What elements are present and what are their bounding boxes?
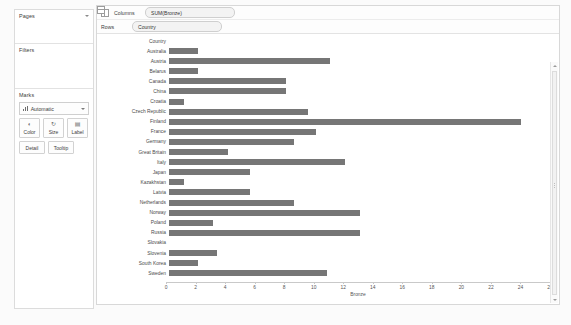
chevron-down-icon[interactable] xyxy=(81,108,85,110)
x-axis-tick-label: 22 xyxy=(488,285,493,290)
x-axis-line xyxy=(166,282,550,283)
bar-mark[interactable] xyxy=(169,179,184,185)
scroll-down-button[interactable] xyxy=(551,296,558,303)
bar-row[interactable]: China xyxy=(97,86,550,96)
color-button[interactable]: ◐ Color xyxy=(19,118,40,138)
chevron-down-icon[interactable] xyxy=(85,15,89,17)
bar-track xyxy=(169,268,550,278)
detail-button[interactable]: Detail xyxy=(19,141,45,154)
bar-row[interactable]: Czech Republic xyxy=(97,107,550,117)
x-axis-title: Bronze xyxy=(166,292,550,297)
bar-row[interactable]: Latvia xyxy=(97,187,550,197)
bar-row[interactable]: Slovenia xyxy=(97,248,550,258)
bar-mark[interactable] xyxy=(169,210,360,216)
bar-mark[interactable] xyxy=(169,88,286,94)
bar-mark[interactable] xyxy=(169,139,294,145)
bar-mark[interactable] xyxy=(169,250,217,256)
bar-row[interactable]: Finland xyxy=(97,117,550,127)
bar-row[interactable]: South Korea xyxy=(97,258,550,268)
x-axis-tick xyxy=(196,282,197,284)
marks-card-header[interactable]: Marks xyxy=(15,89,93,100)
plot-region: Country AustraliaAustriaBelarusCanadaChi… xyxy=(97,36,550,304)
bar-row[interactable]: Poland xyxy=(97,218,550,228)
bar-row[interactable]: Germany xyxy=(97,137,550,147)
bar-row-label: Kazakhstan xyxy=(97,180,169,185)
size-button[interactable]: ↻ Size xyxy=(43,118,64,138)
bar-row[interactable]: Italy xyxy=(97,157,550,167)
bar-row[interactable]: Canada xyxy=(97,76,550,86)
x-axis-tick xyxy=(520,282,521,284)
bar-mark[interactable] xyxy=(169,220,213,226)
label-button[interactable]: ▤ Label xyxy=(67,118,88,138)
columns-shelf[interactable]: Columns SUM(Bronze) xyxy=(97,6,559,20)
bar-mark[interactable] xyxy=(169,78,286,84)
scrollbar-thumb[interactable] xyxy=(552,71,557,295)
bar-mark[interactable] xyxy=(169,230,360,236)
bar-row-label: Russia xyxy=(97,230,169,235)
bar-mark[interactable] xyxy=(169,68,198,74)
bar-track xyxy=(169,248,550,258)
bar-row[interactable]: Belarus xyxy=(97,66,550,76)
bar-mark[interactable] xyxy=(169,48,198,54)
bar-row[interactable]: France xyxy=(97,127,550,137)
x-axis-tick xyxy=(166,282,167,284)
bar-row-label: South Korea xyxy=(97,261,169,266)
bar-row[interactable]: Norway xyxy=(97,208,550,218)
bar-mark[interactable] xyxy=(169,159,345,165)
marks-card: Marks Automatic ◐ Color ↻ Size ▤ Label xyxy=(15,89,93,308)
bar-mark[interactable] xyxy=(169,189,250,195)
bar-track xyxy=(169,177,550,187)
bar-row[interactable]: Kazakhstan xyxy=(97,177,550,187)
pages-card-header[interactable]: Pages xyxy=(15,10,93,21)
bar-mark[interactable] xyxy=(169,58,330,64)
pages-shelf-dropzone[interactable] xyxy=(15,21,93,43)
bar-rows: Country AustraliaAustriaBelarusCanadaChi… xyxy=(97,36,550,282)
x-axis-tick xyxy=(461,282,462,284)
vertical-scrollbar[interactable] xyxy=(550,62,558,303)
bar-track xyxy=(169,86,550,96)
bar-row[interactable]: Slovakia xyxy=(97,238,550,248)
bar-row-label: Canada xyxy=(97,79,169,84)
bar-row[interactable]: Russia xyxy=(97,228,550,238)
bar-row[interactable]: Netherlands xyxy=(97,198,550,208)
bar-row-label: Belarus xyxy=(97,69,169,74)
pill-sum-bronze[interactable]: SUM(Bronze) xyxy=(145,7,235,18)
bar-row-label: Poland xyxy=(97,220,169,225)
bar-row[interactable]: Australia xyxy=(97,46,550,56)
bar-track xyxy=(169,56,550,66)
bar-row-label: Sweden xyxy=(97,271,169,276)
bar-row-label: Norway xyxy=(97,210,169,215)
bar-row-label: Croatia xyxy=(97,99,169,104)
bar-mark[interactable] xyxy=(169,109,308,115)
bar-mark[interactable] xyxy=(169,260,198,266)
bar-mark[interactable] xyxy=(169,149,228,155)
tooltip-button[interactable]: Tooltip xyxy=(48,141,74,154)
color-button-label: Color xyxy=(24,129,36,135)
size-icon: ↻ xyxy=(51,121,56,127)
bar-row[interactable]: Japan xyxy=(97,167,550,177)
detail-button-label: Detail xyxy=(26,145,39,151)
bar-row[interactable]: Sweden xyxy=(97,268,550,278)
mark-type-dropdown[interactable]: Automatic xyxy=(19,102,89,115)
bar-mark[interactable] xyxy=(169,99,184,105)
bar-mark[interactable] xyxy=(169,169,250,175)
chevron-up-icon xyxy=(553,65,557,67)
bar-rows-host: AustraliaAustriaBelarusCanadaChinaCroati… xyxy=(97,46,550,278)
bar-mark[interactable] xyxy=(169,119,521,125)
bar-mark[interactable] xyxy=(169,129,316,135)
bar-mark[interactable] xyxy=(169,270,327,276)
bar-row[interactable]: Croatia xyxy=(97,97,550,107)
filters-card-header[interactable]: Filters xyxy=(15,44,93,55)
chevron-down-icon xyxy=(553,299,557,301)
rows-shelf[interactable]: Rows Country xyxy=(97,20,559,33)
filters-shelf-dropzone[interactable] xyxy=(15,55,93,88)
bar-row[interactable]: Austria xyxy=(97,56,550,66)
x-axis-tick xyxy=(284,282,285,284)
grip-icon xyxy=(554,183,555,186)
scroll-up-button[interactable] xyxy=(551,62,558,69)
bar-mark[interactable] xyxy=(169,200,294,206)
row-header-track xyxy=(169,36,550,46)
marks-primary-buttons: ◐ Color ↻ Size ▤ Label xyxy=(15,118,93,138)
bar-row[interactable]: Great Britain xyxy=(97,147,550,157)
pill-country[interactable]: Country xyxy=(132,21,222,32)
